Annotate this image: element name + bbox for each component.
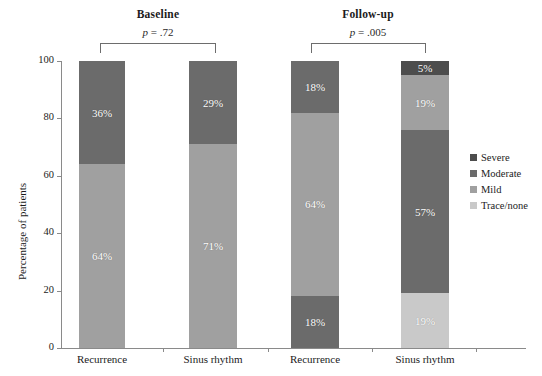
x-label-followup-recurrence: Recurrence: [265, 353, 365, 365]
y-tick-60: [57, 176, 61, 177]
x-tick-3: [372, 348, 373, 352]
x-label-baseline-recurrence: Recurrence: [52, 353, 152, 365]
legend-label: Severe: [481, 152, 510, 163]
bar-segment-label: 29%: [203, 97, 223, 109]
significance-bracket-followup: [311, 43, 426, 53]
y-tick-80: [57, 118, 61, 119]
y-tick-0: [57, 348, 61, 349]
y-tick-20: [57, 291, 61, 292]
y-tick-label-60: 60: [22, 169, 54, 180]
bar-segment-label: 19%: [415, 315, 435, 327]
x-tick-4: [476, 348, 477, 352]
y-tick-label-20: 20: [22, 284, 54, 295]
legend-item-severe[interactable]: Severe: [470, 150, 528, 164]
bar-followup-sinus-rhythm[interactable]: 5% 19% 57% 19%: [401, 61, 449, 348]
bar-segment[interactable]: 19%: [401, 75, 449, 130]
bar-segment-label: 18%: [305, 316, 325, 328]
bar-segment-label: 64%: [92, 250, 112, 262]
pvalue-followup: p = .005: [288, 26, 448, 38]
bar-segment-label: 64%: [305, 198, 325, 210]
bar-baseline-sinus-rhythm[interactable]: 29% 71%: [189, 61, 237, 348]
bar-segment-label: 19%: [415, 97, 435, 109]
legend-item-mild[interactable]: Mild: [470, 182, 528, 196]
legend-label: Moderate: [481, 168, 521, 179]
legend-label: Trace/none: [481, 200, 528, 211]
legend-swatch-icon: [470, 170, 477, 177]
bar-segment[interactable]: 64%: [79, 164, 125, 348]
y-tick-label-0: 0: [22, 341, 54, 352]
bar-segment-label: 57%: [415, 206, 435, 218]
bar-segment-label: 18%: [305, 81, 325, 93]
legend-item-moderate[interactable]: Moderate: [470, 166, 528, 180]
y-tick-label-100: 100: [22, 54, 54, 65]
bar-segment[interactable]: 57%: [401, 130, 449, 294]
y-axis-line: [61, 61, 62, 349]
significance-bracket-baseline: [100, 43, 216, 53]
bar-followup-recurrence[interactable]: 18% 64% 18%: [291, 61, 339, 348]
legend-item-trace-none[interactable]: Trace/none: [470, 198, 528, 212]
legend: Severe Moderate Mild Trace/none: [470, 150, 528, 214]
y-tick-label-40: 40: [22, 226, 54, 237]
bar-segment[interactable]: 29%: [189, 61, 237, 144]
stacked-bar-chart: Baseline Follow-up p = .72 p = .005 Perc…: [0, 0, 542, 376]
x-axis-line: [61, 348, 526, 349]
legend-swatch-icon: [470, 202, 477, 209]
y-tick-label-80: 80: [22, 111, 54, 122]
y-tick-100: [57, 61, 61, 62]
x-label-baseline-sinus-rhythm: Sinus rhythm: [163, 353, 263, 365]
y-tick-40: [57, 233, 61, 234]
x-tick-1: [163, 348, 164, 352]
bar-segment[interactable]: 18%: [291, 61, 339, 113]
pvalue-followup-value: = .005: [355, 26, 386, 38]
bar-segment-label: 71%: [203, 240, 223, 252]
legend-swatch-icon: [470, 154, 477, 161]
group-title-followup: Follow-up: [288, 8, 448, 20]
bar-segment[interactable]: 71%: [189, 144, 237, 348]
legend-label: Mild: [481, 184, 501, 195]
bar-segment[interactable]: 18%: [291, 296, 339, 348]
pvalue-baseline-value: = .72: [148, 26, 173, 38]
legend-swatch-icon: [470, 186, 477, 193]
bar-baseline-recurrence[interactable]: 36% 64%: [79, 61, 125, 348]
bar-segment[interactable]: 5%: [401, 61, 449, 75]
x-label-followup-sinus-rhythm: Sinus rhythm: [375, 353, 475, 365]
bar-segment-label: 36%: [92, 107, 112, 119]
x-tick-2: [268, 348, 269, 352]
pvalue-baseline: p = .72: [78, 26, 238, 38]
bar-segment[interactable]: 64%: [291, 113, 339, 297]
bar-segment-label: 5%: [418, 62, 433, 74]
bar-segment[interactable]: 36%: [79, 61, 125, 164]
bar-segment[interactable]: 19%: [401, 293, 449, 348]
group-title-baseline: Baseline: [78, 8, 238, 20]
